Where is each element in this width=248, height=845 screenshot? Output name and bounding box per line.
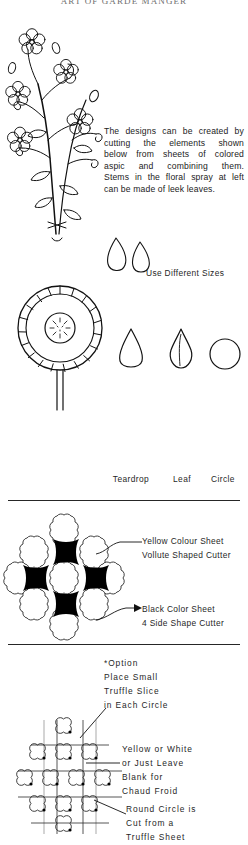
caption-line: The designs can be created by [104,126,244,138]
option-note-line: Truffle Slice [104,686,159,697]
circle-shape-sample [208,336,242,372]
small-teardrop-shape [108,238,126,271]
use-different-sizes-note: Use Different Sizes [146,268,224,279]
floral-spray-illustration [4,22,108,242]
daisy-flower-illustration [8,282,112,412]
section-divider [8,644,240,645]
round-circle-line: Truffle Sheet [126,832,185,843]
black-color-sheet-label: Black Color Sheet [142,604,215,615]
caption-line: can be made of leek leaves. [104,184,244,196]
intro-caption: The designs can be created by cutting th… [104,126,244,196]
shape-label-teardrop: Teardrop [100,474,162,484]
yellow-or-white-line: Blank for [122,772,163,783]
yellow-sheet-leader-line [96,530,144,556]
yellow-or-white-line: Yellow or White [122,744,193,755]
round-circle-line: Round Circle is [126,804,196,815]
yellow-or-white-leader-line [86,758,122,768]
teardrop-size-samples [104,236,152,282]
leaf-shape-sample [166,326,196,372]
caption-line: Stems in the floral spray at left [104,172,244,184]
teardrop-shape-sample [116,326,146,372]
yellow-or-white-line: or Just Leave [122,758,184,769]
yellow-colour-sheet-label: Yellow Colour Sheet [142,536,224,547]
caption-line: cutting the elements shown [104,138,244,150]
option-note-line: *Option [104,658,138,669]
running-head: ART OF GARDE MANGER [0,0,248,6]
book-page: ART OF GARDE MANGER [0,0,248,845]
section-divider [8,500,240,501]
black-sheet-leader-line [96,598,144,622]
shape-label-circle: Circle [200,474,246,484]
yellow-or-white-line: Chaud Froid [122,786,178,797]
scalloped-grid-pattern [18,718,122,836]
vollute-shaped-cutter-label: Vollute Shaped Cutter [142,550,231,561]
option-note-line: Place Small [104,672,158,683]
round-circle-line: Cut from a [126,818,174,829]
option-note-line: in Each Circle [104,700,168,711]
caption-line: aspic and combining them. [104,161,244,173]
round-circle-leader-line [94,798,128,818]
four-side-shape-cutter-label: 4 Side Shape Cutter [142,618,224,629]
caption-line: below from sheets of colored [104,149,244,161]
